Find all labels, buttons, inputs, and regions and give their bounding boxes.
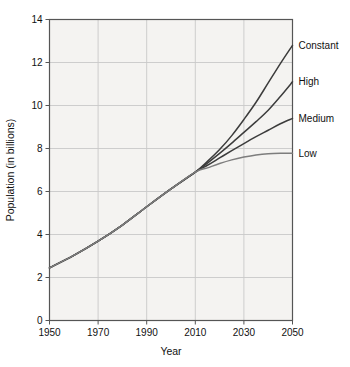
- plot-area-background: [50, 20, 293, 321]
- y-tick-label: 12: [31, 57, 43, 68]
- x-tick-label: 1990: [136, 327, 159, 338]
- x-tick-label: 2050: [281, 327, 304, 338]
- x-tick-label: 1970: [87, 327, 110, 338]
- series-label-low: Low: [299, 148, 318, 159]
- chart-canvas: 02468101214 195019701990201020302050 Con…: [0, 0, 350, 367]
- x-axis-title: Year: [160, 345, 182, 357]
- y-tick-label: 8: [37, 143, 43, 154]
- y-tick-label: 2: [37, 272, 43, 283]
- x-tick-label: 2030: [233, 327, 256, 338]
- series-label-high: High: [299, 76, 320, 87]
- series-label-constant: Constant: [299, 40, 339, 51]
- y-axis-title: Population (in billions): [4, 119, 16, 222]
- x-tick-label: 1950: [38, 327, 61, 338]
- y-tick-label: 0: [37, 315, 43, 326]
- y-tick-label: 10: [31, 100, 43, 111]
- y-tick-label: 14: [31, 14, 43, 25]
- population-projection-chart: 02468101214 195019701990201020302050 Con…: [0, 0, 350, 367]
- y-tick-label: 4: [37, 229, 43, 240]
- x-tick-label: 2010: [184, 327, 207, 338]
- y-tick-label: 6: [37, 186, 43, 197]
- series-label-medium: Medium: [299, 113, 335, 124]
